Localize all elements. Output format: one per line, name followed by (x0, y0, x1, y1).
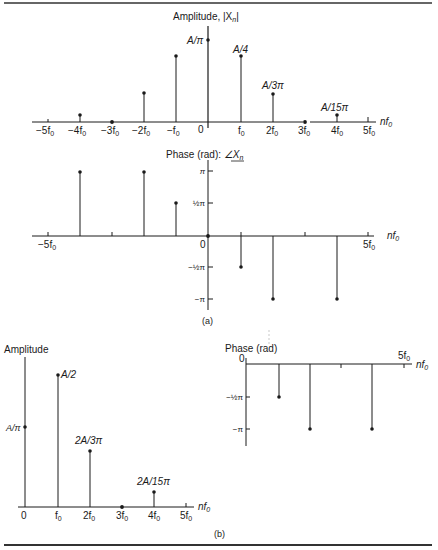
ann-2a-over-15pi: 2A/15π (136, 476, 170, 487)
svg-text:5f0: 5f0 (363, 125, 375, 137)
ann-a-over-2: A/2 (60, 369, 76, 380)
tick-5f0: 5f0 (398, 350, 410, 362)
stems (279, 364, 372, 429)
part-a-caption: (a) (202, 316, 213, 326)
x-axis-label: nf0 (198, 501, 210, 513)
svg-text:−4f0: −4f0 (68, 125, 86, 137)
x-axis-label: nf0 (387, 230, 399, 242)
figure: Amplitude, |Xn| A/π A/4 A/3π A/15π −5f0 … (0, 0, 438, 550)
svg-text:4f0: 4f0 (148, 510, 160, 522)
svg-text:2f0: 2f0 (266, 125, 278, 137)
svg-text:−5f0: −5f0 (36, 125, 54, 137)
origin-zero: 0 (239, 353, 245, 364)
svg-text:f0: f0 (238, 125, 245, 137)
a-phase-title: Phase (rad): ∠Xn (166, 149, 243, 161)
svg-text:0: 0 (21, 510, 27, 521)
a-amp-title: Amplitude, |Xn| (173, 11, 239, 23)
svg-text:f0: f0 (55, 510, 62, 522)
svg-text:π: π (200, 167, 206, 176)
stem-dots (277, 395, 374, 431)
chart-a-phase: Phase (rad): ∠Xn π ½π −½π −π −5f0 0 5f0 … (32, 149, 399, 310)
svg-text:−π: −π (233, 425, 244, 434)
svg-text:2f0: 2f0 (83, 510, 95, 522)
x-axis-label: nf0 (416, 359, 428, 371)
chart-b-phase: Phase (rad) 0 −½π −π 5f0 nf0 (225, 343, 428, 446)
svg-text:3f0: 3f0 (298, 125, 310, 137)
tick-5f0: 5f0 (363, 239, 375, 251)
svg-text:4f0: 4f0 (331, 125, 343, 137)
x-axis-label: nf0 (380, 116, 392, 128)
svg-text:0: 0 (198, 124, 204, 135)
x-tick-labels: −5f0 −4f0 −3f0 −2f0 −f0 0 f0 2f0 3f0 4f0… (36, 124, 375, 137)
ann-a-over-15pi: A/15π (320, 102, 349, 113)
b-phase-title: Phase (rad) (225, 343, 277, 354)
ann-a-over-3pi: A/3π (261, 80, 284, 91)
y-ticks (246, 397, 250, 429)
ann-a-over-4: A/4 (232, 44, 248, 55)
svg-text:3f0: 3f0 (116, 510, 128, 522)
svg-text:½π: ½π (193, 199, 206, 208)
ann-a-over-pi: A/π (186, 35, 203, 46)
chart-a-amplitude: Amplitude, |Xn| A/π A/4 A/3π A/15π −5f0 … (32, 11, 392, 137)
svg-text:−½π: −½π (188, 263, 205, 272)
y-tick-labels: −½π −π (226, 393, 243, 434)
tick-neg5f0: −5f0 (38, 239, 56, 251)
svg-text:5f0: 5f0 (180, 510, 192, 522)
part-b-caption: (b) (214, 529, 225, 539)
svg-text:−π: −π (195, 295, 206, 304)
x-tick-labels: 0 f0 2f0 3f0 4f0 5f0 (21, 510, 192, 522)
svg-text:−½π: −½π (226, 393, 243, 402)
svg-text:−2f0: −2f0 (132, 125, 150, 137)
svg-text:−f0: −f0 (167, 125, 180, 137)
ann-a-over-pi: A/π (5, 423, 22, 433)
stems (58, 375, 154, 507)
ann-2a-over-3pi: 2A/3π (74, 435, 103, 446)
b-amp-title: Amplitude (4, 344, 49, 355)
svg-text:−3f0: −3f0 (101, 125, 119, 137)
chart-b-amplitude: Amplitude A/π A/2 2A/3π 2A/15π 0 f0 2f0 … (4, 344, 210, 522)
tick-zero: 0 (200, 239, 206, 250)
